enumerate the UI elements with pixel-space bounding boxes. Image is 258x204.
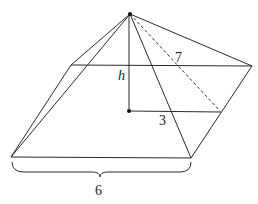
pyramid-diagram: h 7 3 6: [0, 0, 258, 204]
half-base-line: [129, 111, 221, 112]
base-edge-left: [11, 65, 71, 157]
lateral-edge-front-left: [11, 14, 130, 157]
half-base-label: 3: [159, 113, 166, 128]
height-label: h: [118, 68, 125, 83]
apex-point: [128, 12, 132, 16]
base-edge-back: [71, 65, 252, 66]
base-edge-front: [11, 157, 191, 158]
base-side-brace: [12, 162, 191, 177]
lateral-edge-back-left: [71, 14, 130, 65]
slant-height-label: 7: [175, 50, 182, 65]
base-center-point: [127, 109, 131, 113]
base-side-label: 6: [95, 183, 102, 198]
